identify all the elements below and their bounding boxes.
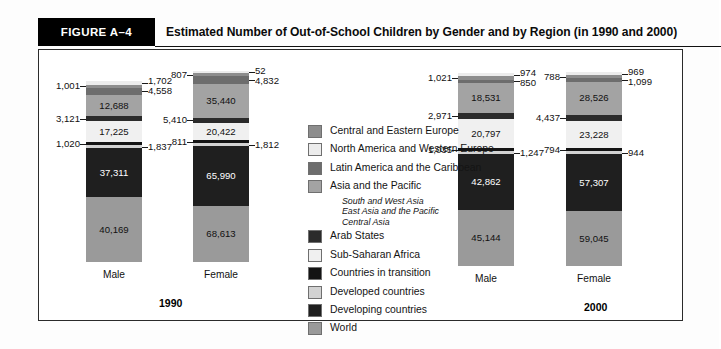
- legend-swatch-icon: [308, 125, 322, 138]
- bar-segment[interactable]: 28,526: [566, 82, 622, 115]
- legend-item[interactable]: Latin America and the Caribbean: [308, 160, 508, 178]
- legend-subitem: Central Asia: [308, 218, 508, 229]
- legend-swatch-icon: [308, 267, 322, 280]
- legend-label: Latin America and the Caribbean: [330, 161, 481, 175]
- legend-item[interactable]: Developing countries: [308, 302, 508, 320]
- legend-swatch-icon: [308, 180, 322, 193]
- legend-subitem-label: East Asia and the Pacific: [342, 206, 439, 217]
- chart-legend: Central and Eastern EuropeNorth America …: [308, 123, 508, 339]
- segment-value-label: 28,526: [566, 93, 622, 103]
- figure-number-badge: FIGURE A–4: [38, 18, 155, 46]
- legend-label: World: [330, 321, 357, 335]
- legend-swatch-icon: [308, 322, 322, 335]
- legend-label: Developed countries: [330, 285, 425, 299]
- stacked-bar[interactable]: 28,52623,22857,30759,045: [566, 72, 622, 266]
- figure-title: Estimated Number of Out-of-School Childr…: [166, 18, 677, 46]
- segment-callout-label: 794: [514, 145, 560, 155]
- segment-callout-label: 944: [628, 148, 674, 158]
- legend-label: Asia and the Pacific: [330, 179, 421, 193]
- bar-segment[interactable]: 59,045: [566, 211, 622, 266]
- legend-label: Arab States: [330, 229, 384, 243]
- legend-swatch-icon: [308, 230, 322, 243]
- header-rule: [155, 46, 721, 48]
- group-year-label: 2000: [584, 301, 607, 313]
- legend-swatch-icon: [308, 143, 322, 156]
- bar-gender-label: Female: [549, 273, 639, 284]
- legend-item[interactable]: Countries in transition: [308, 265, 508, 283]
- legend-subitem: East Asia and the Pacific: [308, 207, 508, 218]
- legend-item[interactable]: Sub-Saharan Africa: [308, 247, 508, 265]
- legend-label: North America and Western Europe: [330, 142, 494, 156]
- legend-swatch-icon: [308, 286, 322, 299]
- chart-panel: 1,7021,0014,5583,1211,0201,83712,68817,2…: [38, 49, 683, 321]
- group-year-label: 1990: [159, 297, 182, 309]
- legend-subitem-label: Central Asia: [342, 217, 390, 228]
- callout-leader-line: [622, 74, 628, 75]
- bar-segment[interactable]: 57,307: [566, 154, 622, 211]
- callout-leader-line: [622, 80, 628, 81]
- legend-label: Developing countries: [330, 303, 427, 317]
- legend-label: Countries in transition: [330, 266, 431, 280]
- bar-segment[interactable]: 23,228: [566, 121, 622, 148]
- legend-label: Sub-Saharan Africa: [330, 248, 420, 262]
- callout-leader-line: [622, 153, 628, 154]
- segment-value-label: 59,045: [566, 234, 622, 244]
- legend-item[interactable]: Arab States: [308, 228, 508, 246]
- legend-swatch-icon: [308, 249, 322, 262]
- segment-callout-label: 788: [514, 72, 560, 82]
- legend-label: Central and Eastern Europe: [330, 124, 459, 138]
- legend-item[interactable]: North America and Western Europe: [308, 141, 508, 159]
- figure-header: FIGURE A–4 Estimated Number of Out-of-Sc…: [38, 18, 686, 48]
- segment-callout-label: 4,437: [514, 113, 560, 123]
- legend-subitem-label: South and West Asia: [342, 196, 424, 207]
- legend-swatch-icon: [308, 304, 322, 317]
- segment-value-label: 23,228: [566, 130, 622, 140]
- legend-swatch-icon: [308, 162, 322, 175]
- legend-item[interactable]: World: [308, 320, 508, 338]
- segment-callout-label: 1,099: [628, 77, 674, 87]
- segment-value-label: 57,307: [566, 178, 622, 188]
- legend-item[interactable]: Asia and the Pacific: [308, 178, 508, 196]
- legend-item[interactable]: Developed countries: [308, 284, 508, 302]
- legend-item[interactable]: Central and Eastern Europe: [308, 123, 508, 141]
